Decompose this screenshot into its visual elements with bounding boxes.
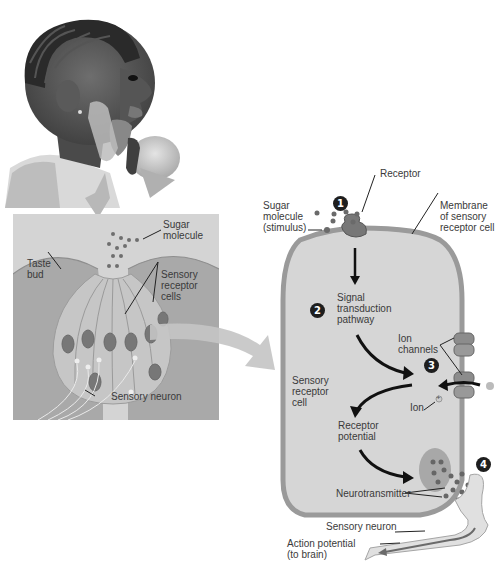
label-ion: Ion bbox=[410, 402, 424, 413]
label-signal-transduction: Signal transduction pathway bbox=[337, 292, 391, 325]
sensory-receptor-cell-diagram bbox=[0, 0, 504, 570]
label-receptor: Receptor bbox=[380, 168, 421, 179]
label-receptor-potential: Receptor potential bbox=[338, 420, 379, 442]
label-neurotransmitter: Neurotransmitter bbox=[336, 488, 410, 499]
step-badge-3: 3 bbox=[424, 358, 439, 373]
step-badge-4: 4 bbox=[476, 457, 491, 472]
label-sugar-stimulus: Sugar molecule (stimulus) bbox=[263, 200, 306, 233]
label-membrane: Membrane of sensory receptor cell bbox=[440, 200, 494, 233]
step-badge-2: 2 bbox=[310, 303, 325, 318]
label-sensory-receptor-cell: Sensory receptor cell bbox=[292, 375, 329, 408]
step-badge-1: 1 bbox=[333, 196, 348, 211]
label-action-potential: Action potential (to brain) bbox=[287, 538, 355, 560]
ion-plus-symbol: + bbox=[436, 392, 441, 403]
label-ion-channels: Ion channels bbox=[398, 333, 438, 355]
label-sensory-neuron-right: Sensory neuron bbox=[326, 521, 397, 532]
